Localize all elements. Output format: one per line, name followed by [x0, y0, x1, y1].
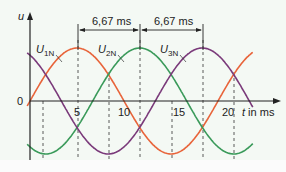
arrow-right-icon [196, 28, 202, 32]
arrow-left-icon [141, 28, 147, 32]
tick-15: 15 [173, 106, 185, 118]
dimension-lines [78, 24, 203, 50]
u-axis-label: u [18, 10, 24, 22]
u1n-label: U1N [36, 43, 54, 58]
arrow-left-icon [79, 28, 85, 32]
waveform-plot: u 0 5 10 15 20 t in ms 6,67 ms 6,67 ms U… [0, 0, 286, 172]
u3n-label: U3N [160, 43, 178, 58]
u-axis-arrow-icon [27, 12, 33, 20]
three-phase-diagram: u 0 5 10 15 20 t in ms 6,67 ms 6,67 ms U… [0, 0, 286, 172]
t-axis-arrow-icon [273, 98, 281, 104]
tick-20: 20 [222, 106, 234, 118]
period-dim-2: 6,67 ms [154, 15, 194, 27]
origin-label: 0 [17, 95, 23, 107]
tick-5: 5 [74, 106, 80, 118]
u2n-label: U2N [98, 43, 116, 58]
t-axis-label: t in ms [242, 106, 275, 118]
period-dim-1: 6,67 ms [92, 15, 132, 27]
dashed-guides [43, 40, 234, 160]
arrow-right-icon [133, 28, 139, 32]
tick-10: 10 [118, 106, 130, 118]
